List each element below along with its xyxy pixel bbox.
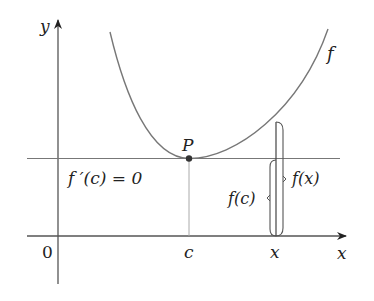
x-tick-x: x — [270, 242, 280, 262]
fx-label: f(x) — [291, 169, 319, 188]
fx-brace — [276, 122, 283, 236]
curve-f — [110, 29, 328, 159]
y-axis-label: y — [39, 16, 50, 36]
origin-label: 0 — [42, 242, 53, 262]
x-axis-label: x — [337, 243, 347, 263]
point-label: P — [181, 135, 194, 155]
diagram-canvas: y x 0 f P f ′(c) = 0 c x f(c) f(x) — [0, 0, 374, 301]
fc-brace — [270, 160, 276, 236]
curve-label: f — [325, 43, 337, 64]
x-tick-c: c — [184, 242, 194, 262]
point-p-dot — [186, 155, 192, 161]
derivative-annotation: f ′(c) = 0 — [66, 168, 142, 188]
fc-label: f(c) — [227, 189, 255, 208]
